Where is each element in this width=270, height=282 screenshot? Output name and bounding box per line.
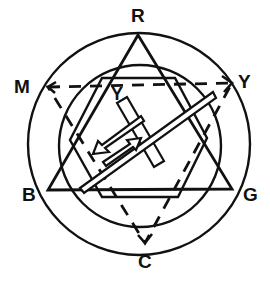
label-m: M bbox=[14, 76, 30, 97]
label-y-center: Y bbox=[111, 84, 123, 104]
label-y-outer: Y bbox=[238, 71, 251, 92]
solid-triangle-rbg bbox=[48, 35, 232, 190]
label-c: C bbox=[138, 251, 152, 272]
label-r: R bbox=[131, 5, 145, 26]
diagonal-arrow bbox=[80, 92, 216, 193]
label-b: B bbox=[22, 184, 36, 205]
color-wheel-diagram: R M Y B G C Y bbox=[0, 0, 270, 282]
label-g: G bbox=[243, 184, 258, 205]
